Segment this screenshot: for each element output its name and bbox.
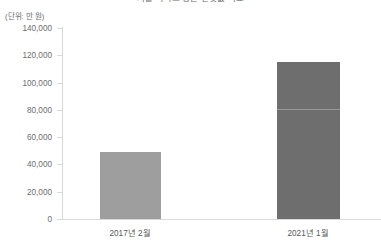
bar-chart: 서울 아파트 평균 전셋값 비교 (단위: 만 원) 0 20,000 40,0…	[0, 0, 381, 242]
y-axis-label-140000: 140,000	[0, 24, 52, 33]
y-tick-0	[57, 219, 62, 220]
bar-internal-gridline	[277, 109, 340, 110]
chart-title: 서울 아파트 평균 전셋값 비교	[0, 0, 381, 3]
unit-label: (단위: 만 원)	[5, 10, 44, 21]
bar-2021-01[interactable]	[277, 62, 340, 219]
x-axis-line	[62, 219, 381, 220]
bar-2017-02[interactable]	[100, 152, 161, 219]
y-axis-label-80000: 80,000	[0, 105, 52, 114]
y-axis-label-40000: 40,000	[0, 160, 52, 169]
y-axis-label-0: 0	[0, 215, 52, 224]
y-axis-label-60000: 60,000	[0, 133, 52, 142]
x-axis-label-2021-01: 2021년 1월	[287, 226, 328, 238]
x-axis-label-2017-02: 2017년 2월	[109, 226, 150, 238]
y-axis-label-20000: 20,000	[0, 187, 52, 196]
plot-area	[62, 28, 381, 219]
y-axis-label-100000: 100,000	[0, 78, 52, 87]
y-axis-label-120000: 120,000	[0, 51, 52, 60]
